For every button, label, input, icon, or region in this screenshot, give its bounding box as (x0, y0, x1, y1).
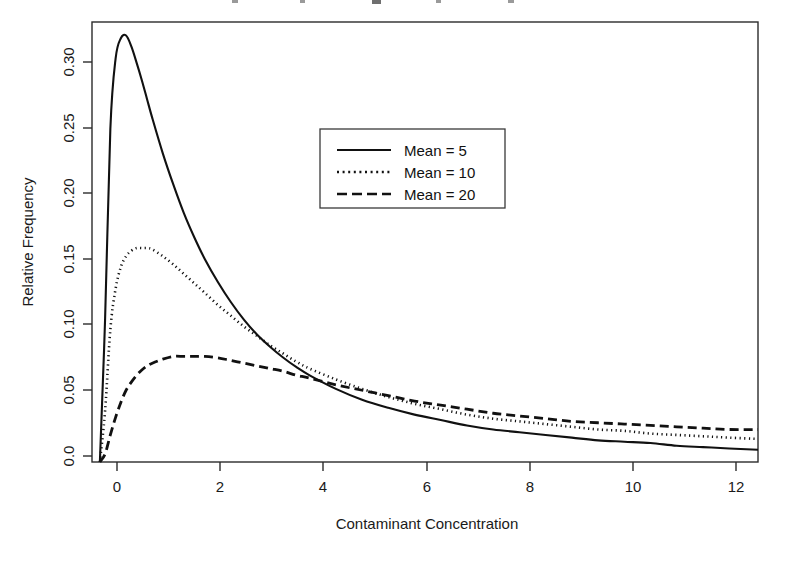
x-tick-label-2: 2 (216, 478, 224, 495)
x-axis-title: Contaminant Concentration (336, 515, 519, 532)
curve-mean-5 (100, 35, 758, 462)
x-tick-label-10: 10 (625, 478, 642, 495)
cropped-title-sliver (232, 0, 514, 4)
line-chart: 0 2 4 6 8 10 12 0.0 0.05 0.10 0.15 0.20 … (0, 0, 788, 575)
y-tick-label-015: 0.15 (60, 244, 77, 273)
x-tick-label-6: 6 (423, 478, 431, 495)
curve-mean-20 (100, 356, 758, 462)
legend-label-mean-5: Mean = 5 (404, 142, 467, 159)
y-axis-ticks (83, 62, 92, 456)
legend: Mean = 5 Mean = 10 Mean = 20 (320, 129, 505, 208)
x-axis-ticks (117, 462, 736, 471)
legend-label-mean-10: Mean = 10 (404, 164, 475, 181)
plot-frame (92, 22, 758, 462)
y-tick-label-0: 0.0 (60, 446, 77, 467)
y-tick-label-020: 0.20 (60, 178, 77, 207)
curves-group (100, 35, 758, 462)
x-tick-label-12: 12 (728, 478, 745, 495)
y-tick-label-005: 0.05 (60, 375, 77, 404)
y-tick-label-010: 0.10 (60, 309, 77, 338)
y-tick-label-025: 0.25 (60, 113, 77, 142)
y-tick-label-030: 0.30 (60, 47, 77, 76)
x-tick-label-8: 8 (526, 478, 534, 495)
x-tick-label-4: 4 (319, 478, 327, 495)
legend-label-mean-20: Mean = 20 (404, 186, 475, 203)
x-tick-label-0: 0 (113, 478, 121, 495)
chart-page: 0 2 4 6 8 10 12 0.0 0.05 0.10 0.15 0.20 … (0, 0, 788, 575)
y-axis-title: Relative Frequency (19, 177, 36, 307)
